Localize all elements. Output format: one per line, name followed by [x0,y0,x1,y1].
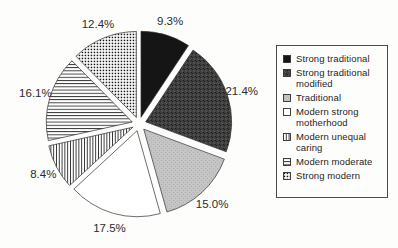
legend-item-label: Modern unequal caring [296,131,384,153]
legend-swatch-icon [283,55,291,63]
legend-swatch-icon [283,69,291,77]
slice-percentage-label: 8.4% [30,168,56,180]
legend-swatch-icon [283,158,291,166]
legend-item-label: Traditional [296,92,341,103]
legend-item-label: Modern moderate [296,156,372,167]
legend-item: Modern strong motherhood [283,106,384,128]
legend-swatch-icon [283,94,291,102]
legend-item-label: Strong traditional modified [296,67,384,89]
legend-swatch-icon [283,108,291,116]
slice-percentage-label: 17.5% [93,222,126,234]
slice-percentage-label: 12.4% [82,18,115,30]
legend-item-label: Strong modern [296,170,360,181]
legend-item-label: Strong traditional [296,53,370,64]
legend-item-label: Modern strong motherhood [296,106,384,128]
legend-box: Strong traditionalStrong traditional mod… [276,45,388,198]
slice-percentage-label: 15.0% [196,198,229,210]
legend-item: Modern unequal caring [283,131,384,153]
slice-percentage-label: 9.3% [157,15,183,27]
slice-percentage-label: 16.1% [19,87,52,99]
pie-chart: 9.3%21.4%15.0%17.5%8.4%16.1%12.4% [0,0,274,248]
legend-item: Modern moderate [283,156,384,167]
legend-item: Strong traditional modified [283,67,384,89]
legend-item: Traditional [283,92,384,103]
legend-swatch-icon [283,133,291,141]
legend-item: Strong modern [283,170,384,181]
legend-swatch-icon [283,172,291,180]
pie-figure: 9.3%21.4%15.0%17.5%8.4%16.1%12.4% Strong… [0,0,398,248]
legend-item: Strong traditional [283,53,384,64]
slice-percentage-label: 21.4% [225,85,258,97]
